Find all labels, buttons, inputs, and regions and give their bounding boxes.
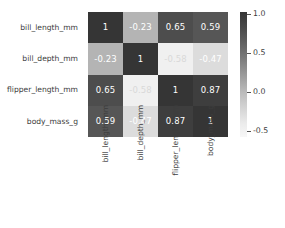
x-tick-slot: flipper_length_mm [158, 137, 193, 225]
x-tick-slot: bill_depth_mm [123, 137, 158, 225]
x-tick-label: body_mass_g [207, 105, 215, 185]
y-axis-tick-labels: bill_length_mm bill_depth_mm flipper_len… [0, 12, 83, 137]
heatmap-cell: -0.58 [158, 43, 193, 74]
y-tick-label: body_mass_g [0, 106, 83, 137]
heatmap-cell: -0.47 [193, 43, 228, 74]
heatmap-cell: -0.58 [123, 75, 158, 106]
x-axis-tick-labels: bill_length_mm bill_depth_mm flipper_len… [88, 137, 228, 225]
colorbar-tick-mark [247, 92, 251, 93]
colorbar-tick-label: -0.5 [253, 127, 268, 135]
heatmap-cell: 0.65 [88, 75, 123, 106]
heatmap-cell: 0.59 [193, 12, 228, 43]
y-tick-label: bill_length_mm [0, 12, 83, 43]
colorbar-legend: 1.0 0.5 0.0 -0.5 [240, 12, 285, 137]
x-tick-slot: body_mass_g [193, 137, 228, 225]
colorbar-gradient [240, 12, 247, 137]
heatmap-cell: 1 [88, 12, 123, 43]
y-tick-label: bill_depth_mm [0, 43, 83, 74]
colorbar-tick-mark [247, 131, 251, 132]
heatmap-cell: 0.65 [158, 12, 193, 43]
x-tick-label: bill_length_mm [102, 105, 110, 185]
colorbar-tick-label: 0.0 [253, 88, 265, 96]
x-tick-label: bill_depth_mm [137, 105, 145, 185]
heatmap-cell: -0.23 [123, 12, 158, 43]
heatmap-cell: -0.23 [88, 43, 123, 74]
heatmap-cell: 0.87 [193, 75, 228, 106]
x-tick-label: flipper_length_mm [172, 105, 180, 185]
colorbar-tick-mark [247, 14, 251, 15]
heatmap-cell: 1 [123, 43, 158, 74]
correlation-heatmap-figure: bill_length_mm bill_depth_mm flipper_len… [0, 0, 285, 228]
colorbar-tick-mark [247, 53, 251, 54]
colorbar-tick-label: 0.5 [253, 49, 265, 57]
x-tick-slot: bill_length_mm [88, 137, 123, 225]
y-tick-label: flipper_length_mm [0, 75, 83, 106]
heatmap-cell: 1 [158, 75, 193, 106]
colorbar-tick-label: 1.0 [253, 10, 265, 18]
